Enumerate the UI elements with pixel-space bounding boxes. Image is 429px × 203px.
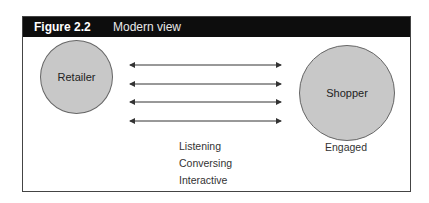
label-interactive: Interactive	[179, 174, 227, 186]
label-listening: Listening	[179, 140, 221, 152]
label-conversing: Conversing	[179, 157, 232, 169]
figure-frame: Figure 2.2 Modern view Retailer Shopper …	[22, 16, 411, 192]
